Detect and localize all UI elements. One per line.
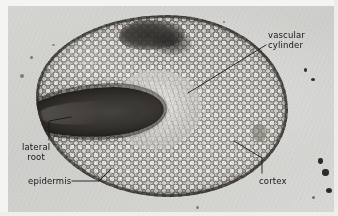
micrograph-figure: vascular cylinder lateral root epidermis… bbox=[0, 0, 338, 216]
slide-debris-speck bbox=[312, 196, 315, 199]
label-vascular-cylinder-line1: vascular bbox=[268, 30, 305, 40]
plate-margin-left bbox=[0, 0, 8, 216]
label-cortex: cortex bbox=[259, 176, 287, 186]
slide-debris-speck bbox=[304, 68, 307, 72]
label-lateral-root: lateral root bbox=[22, 142, 50, 162]
slide-debris-speck bbox=[326, 188, 332, 193]
slide-debris-speck bbox=[196, 206, 199, 209]
slide-artifact-grey-blob bbox=[252, 124, 266, 142]
plate-margin-bottom bbox=[0, 212, 338, 216]
slide-debris-speck bbox=[322, 169, 329, 176]
slide-debris-speck bbox=[52, 44, 55, 46]
label-lateral-root-line2: root bbox=[22, 152, 50, 162]
label-vascular-cylinder: vascular cylinder bbox=[268, 30, 305, 50]
label-epidermis: epidermis bbox=[28, 176, 71, 186]
label-vascular-cylinder-line2: cylinder bbox=[268, 40, 305, 50]
slide-debris-speck bbox=[20, 74, 24, 78]
slide-debris-speck bbox=[318, 158, 323, 164]
slide-debris-speck bbox=[223, 21, 225, 23]
root-cross-section bbox=[36, 15, 288, 197]
section-body bbox=[36, 15, 288, 197]
slide-debris-speck bbox=[30, 56, 33, 59]
label-lateral-root-line1: lateral bbox=[22, 142, 50, 152]
plate-margin-right bbox=[334, 0, 338, 216]
slide-debris-speck bbox=[311, 78, 315, 81]
